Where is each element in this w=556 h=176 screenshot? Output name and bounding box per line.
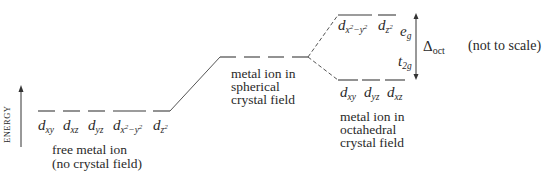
arrow-down-icon (414, 74, 419, 80)
delta-oct-arrow (414, 13, 419, 80)
arrow-up-icon (19, 85, 24, 92)
free-ion-orbital-labels: dxy dxz dyz dx2−y2 dz2 (38, 117, 168, 135)
energy-axis-label: ENERGY (2, 106, 12, 143)
orbital-label-t2g-dxz: dxz (387, 84, 403, 102)
connector-free-to-spherical (170, 57, 220, 111)
free-ion-caption: free metal ion(no crystal field) (52, 142, 142, 171)
octahedral-caption: metal ion inoctahedralcrystal field (340, 109, 405, 150)
spherical-caption: metal ion insphericalcrystal field (231, 66, 296, 107)
connector-to-t2g (308, 57, 338, 80)
orbital-label-dyz: dyz (88, 117, 104, 135)
not-to-scale-note: (not to scale) (468, 38, 541, 54)
orbital-label-dxy: dxy (38, 117, 55, 135)
orbital-label-dxz: dxz (63, 117, 79, 135)
orbital-label-t2g-dxy: dxy (340, 84, 357, 102)
orbital-label-eg-dx2y2: dx2−y2 (338, 17, 368, 35)
orbital-label-dz2: dz2 (153, 117, 168, 135)
t2g-label: t2g (398, 53, 412, 71)
connector-to-eg (308, 15, 338, 57)
arrow-up-icon (414, 13, 419, 19)
energy-axis: ENERGY (2, 85, 24, 147)
orbital-label-eg-dz2: dz2 (378, 17, 393, 35)
delta-oct-label: Δoct (423, 38, 445, 56)
orbital-label-t2g-dyz: dyz (364, 84, 380, 102)
crystal-field-diagram: ENERGY dxy dxz dyz dx2−y2 dz2 free metal… (0, 0, 556, 176)
eg-label: eg (400, 23, 412, 41)
orbital-label-dx2y2: dx2−y2 (113, 117, 143, 135)
